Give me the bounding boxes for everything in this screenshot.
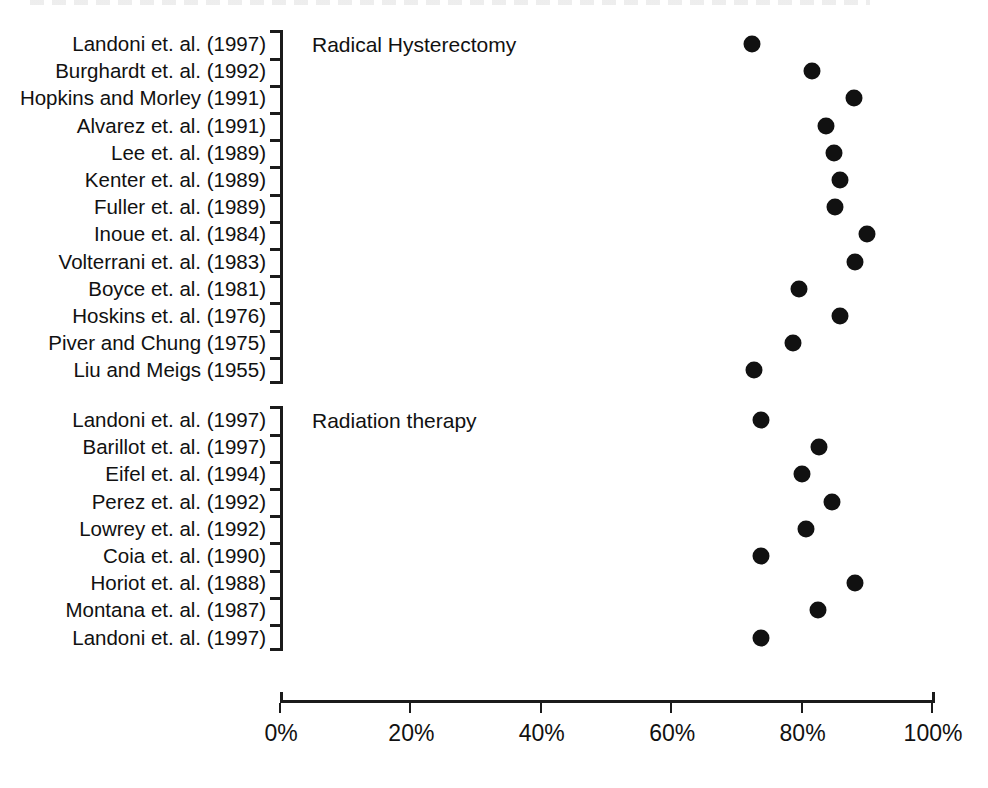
category-tick-1-11 bbox=[270, 330, 283, 333]
category-tick-2-5 bbox=[270, 542, 283, 545]
value-axis-tick-2 bbox=[540, 703, 542, 713]
value-axis-tick-5 bbox=[931, 703, 933, 713]
category-label: Lee et. al. (1989) bbox=[111, 143, 266, 164]
category-tick-1-10 bbox=[270, 302, 283, 305]
category-label: Barillot et. al. (1997) bbox=[83, 437, 266, 458]
data-point bbox=[847, 575, 864, 592]
category-label: Landoni et. al. (1997) bbox=[72, 34, 266, 55]
category-tick-2-2 bbox=[270, 461, 283, 464]
data-point bbox=[753, 629, 770, 646]
data-point bbox=[826, 199, 843, 216]
value-axis-tick-3 bbox=[670, 703, 672, 713]
category-tick-1-6 bbox=[270, 194, 283, 197]
category-label: Piver and Chung (1975) bbox=[48, 333, 266, 354]
category-axis-cap-2-2 bbox=[270, 648, 283, 651]
category-label: Alvarez et. al. (1991) bbox=[77, 115, 266, 136]
group-annotation-1: Radical Hysterectomy bbox=[312, 34, 516, 55]
data-point bbox=[832, 172, 849, 189]
value-axis-tick-label: 60% bbox=[649, 722, 695, 745]
plot-area: Radical HysterectomyLandoni et. al. (199… bbox=[0, 0, 988, 788]
category-label: Fuller et. al. (1989) bbox=[94, 197, 266, 218]
data-point bbox=[790, 280, 807, 297]
figure-root: Radical HysterectomyLandoni et. al. (199… bbox=[0, 0, 988, 788]
value-axis-tick-label: 0% bbox=[264, 722, 297, 745]
category-tick-1-8 bbox=[270, 248, 283, 251]
category-label: Landoni et. al. (1997) bbox=[72, 410, 266, 431]
data-point bbox=[832, 308, 849, 325]
category-tick-2-1 bbox=[270, 434, 283, 437]
data-point bbox=[804, 63, 821, 80]
category-label: Perez et. al. (1992) bbox=[92, 491, 266, 512]
value-axis-tick-label: 40% bbox=[519, 722, 565, 745]
category-tick-2-6 bbox=[270, 570, 283, 573]
category-label: Boyce et. al. (1981) bbox=[88, 279, 266, 300]
value-axis-endcap-2 bbox=[932, 692, 935, 703]
category-label: Kenter et. al. (1989) bbox=[85, 170, 266, 191]
category-tick-1-2 bbox=[270, 85, 283, 88]
data-point bbox=[847, 253, 864, 270]
category-tick-1-5 bbox=[270, 166, 283, 169]
data-point bbox=[785, 335, 802, 352]
data-point bbox=[858, 226, 875, 243]
value-axis-tick-1 bbox=[409, 703, 411, 713]
category-axis-cap-1-2 bbox=[270, 381, 283, 384]
value-axis-tick-4 bbox=[801, 703, 803, 713]
data-point bbox=[753, 412, 770, 429]
category-tick-2-7 bbox=[270, 597, 283, 600]
category-tick-1-12 bbox=[270, 357, 283, 360]
data-point bbox=[753, 548, 770, 565]
category-axis-spine-2 bbox=[280, 406, 283, 651]
data-point bbox=[824, 493, 841, 510]
value-axis-tick-label: 80% bbox=[780, 722, 826, 745]
category-label: Hoskins et. al. (1976) bbox=[72, 306, 266, 327]
value-axis-line bbox=[280, 700, 935, 703]
category-label: Lowrey et. al. (1992) bbox=[79, 519, 266, 540]
category-axis-cap-2-1 bbox=[270, 406, 283, 409]
category-tick-1-7 bbox=[270, 221, 283, 224]
data-point bbox=[811, 439, 828, 456]
category-tick-1-1 bbox=[270, 58, 283, 61]
category-tick-2-3 bbox=[270, 488, 283, 491]
data-point bbox=[826, 144, 843, 161]
category-tick-1-4 bbox=[270, 139, 283, 142]
data-point bbox=[817, 117, 834, 134]
category-tick-1-3 bbox=[270, 112, 283, 115]
data-point bbox=[744, 36, 761, 53]
value-axis-endcap-1 bbox=[280, 692, 283, 703]
category-label: Coia et. al. (1990) bbox=[103, 546, 266, 567]
value-axis-tick-0 bbox=[279, 703, 281, 713]
category-label: Burghardt et. al. (1992) bbox=[55, 61, 266, 82]
category-label: Hopkins and Morley (1991) bbox=[20, 88, 266, 109]
data-point bbox=[746, 362, 763, 379]
data-point bbox=[845, 90, 862, 107]
value-axis-tick-label: 20% bbox=[388, 722, 434, 745]
category-label: Eifel et. al. (1994) bbox=[105, 464, 266, 485]
category-label: Landoni et. al. (1997) bbox=[72, 627, 266, 648]
data-point bbox=[809, 602, 826, 619]
category-label: Montana et. al. (1987) bbox=[65, 600, 266, 621]
category-label: Volterrani et. al. (1983) bbox=[59, 251, 266, 272]
data-point bbox=[798, 520, 815, 537]
category-axis-cap-1-1 bbox=[270, 30, 283, 33]
category-tick-2-4 bbox=[270, 515, 283, 518]
category-label: Inoue et. al. (1984) bbox=[94, 224, 266, 245]
category-label: Horiot et. al. (1988) bbox=[91, 573, 266, 594]
category-label: Liu and Meigs (1955) bbox=[73, 360, 266, 381]
category-tick-1-9 bbox=[270, 275, 283, 278]
category-tick-2-8 bbox=[270, 624, 283, 627]
group-annotation-2: Radiation therapy bbox=[312, 410, 477, 431]
data-point bbox=[794, 466, 811, 483]
value-axis-tick-label: 100% bbox=[904, 722, 963, 745]
